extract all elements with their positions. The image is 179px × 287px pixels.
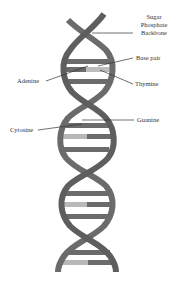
cytosine-label: Cytosine <box>10 126 33 134</box>
base-pair-rung <box>68 79 108 84</box>
cytosine-base <box>61 134 87 139</box>
cytosine-base <box>61 202 87 207</box>
thymine-label: Thymine <box>135 80 158 88</box>
label-line-sugar: Sugar <box>136 13 172 21</box>
guanine-base <box>87 134 112 139</box>
guanine-base <box>87 202 112 207</box>
base-pair-rung <box>63 214 109 219</box>
guanine-base <box>88 260 112 265</box>
label-line-phosphate: Phosphate <box>136 21 172 29</box>
base-pair-rung <box>62 191 110 196</box>
thymine-base <box>86 67 110 72</box>
guanine-label: Guanine <box>137 116 159 124</box>
label-line-backbone: Backbone <box>136 29 172 37</box>
base-pair-label: Base pair <box>136 54 160 62</box>
adenine-label: Adenine <box>17 77 39 85</box>
base-pair-rung <box>63 147 109 152</box>
base-pair-rung <box>66 59 110 64</box>
sugar-phosphate-backbone-label: Sugar Phosphate Backbone <box>136 13 172 37</box>
dna-helix-illustration <box>0 0 179 287</box>
cytosine-base <box>62 260 88 265</box>
